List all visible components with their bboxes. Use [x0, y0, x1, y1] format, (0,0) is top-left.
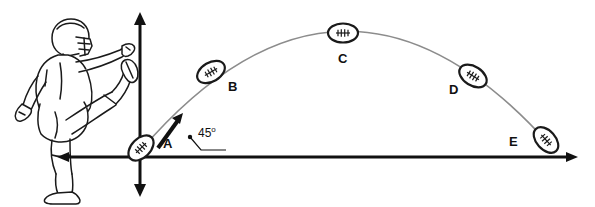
diagram-canvas	[0, 0, 595, 207]
point-label-e: E	[509, 135, 518, 148]
projectile-motion-diagram: A B C D E 45o	[0, 0, 595, 207]
x-axis-arrow-right	[566, 152, 578, 162]
point-label-b: B	[228, 80, 237, 93]
coordinate-axes	[57, 12, 578, 197]
point-label-c: C	[338, 52, 347, 65]
point-label-d: D	[449, 83, 458, 96]
football-marker-c	[328, 24, 358, 43]
football-marker-d	[455, 60, 491, 92]
y-axis-arrow-down	[134, 184, 146, 197]
football-marker-b	[193, 56, 228, 87]
point-label-a: A	[163, 137, 172, 150]
launch-angle-label: 45o	[198, 126, 216, 139]
degree-symbol: o	[211, 125, 215, 134]
x-axis-arrow-left	[57, 152, 69, 162]
launch-angle-value: 45	[198, 126, 211, 140]
y-axis-arrow-up	[134, 12, 146, 25]
football-player-figure	[15, 19, 138, 204]
